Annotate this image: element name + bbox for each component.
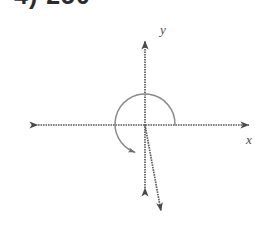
terminal-side-ray (145, 125, 161, 211)
y-axis-label: y (158, 22, 166, 37)
x-axis-label: x (245, 132, 252, 147)
coordinate-plane-figure: y x (0, 0, 260, 250)
figure-page: 4) 250 (0, 0, 260, 250)
